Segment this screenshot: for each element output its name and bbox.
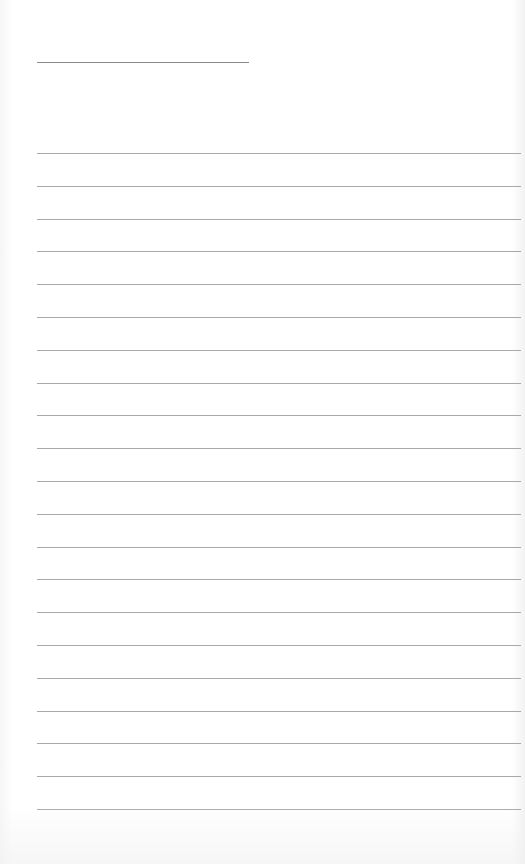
ruled-line [37, 186, 521, 187]
ruled-line [37, 743, 521, 744]
ruled-line [37, 809, 521, 810]
ruled-line [37, 711, 521, 712]
ruled-line [37, 317, 521, 318]
lined-paper-page [0, 0, 525, 864]
ruled-line [37, 251, 521, 252]
ruled-line [37, 350, 521, 351]
ruled-line [37, 645, 521, 646]
ruled-line [37, 547, 521, 548]
ruled-line [37, 284, 521, 285]
ruled-line [37, 678, 521, 679]
ruled-line [37, 415, 521, 416]
ruled-line [37, 448, 521, 449]
ruled-line [37, 579, 521, 580]
ruled-line [37, 383, 521, 384]
ruled-line [37, 219, 521, 220]
ruled-lines [37, 0, 521, 864]
ruled-line [37, 481, 521, 482]
ruled-line [37, 514, 521, 515]
ruled-line [37, 153, 521, 154]
ruled-line [37, 776, 521, 777]
ruled-line [37, 612, 521, 613]
